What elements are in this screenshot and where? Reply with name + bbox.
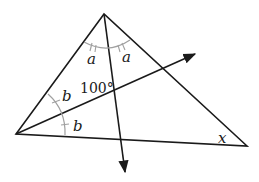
triangle-diagram: a a b b 100° x [0, 0, 259, 182]
label-b-lower: b [73, 117, 83, 135]
label-intersection-angle: 100° [80, 80, 114, 96]
label-a-left: a [87, 50, 96, 68]
tick-b-lower [61, 124, 69, 125]
triangle [16, 14, 247, 146]
label-x: x [218, 129, 227, 147]
label-a-right: a [122, 48, 131, 66]
label-b-upper: b [62, 87, 72, 105]
